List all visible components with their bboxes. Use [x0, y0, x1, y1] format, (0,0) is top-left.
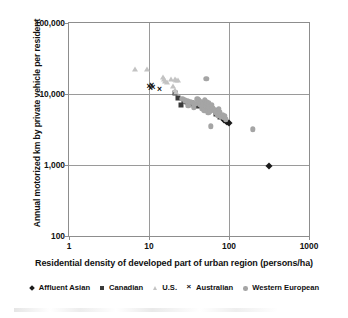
triangle-marker-icon: [152, 284, 159, 291]
y-axis-title: Annual motorized km by private vehicle p…: [32, 8, 42, 238]
data-point-u-s: [144, 66, 150, 71]
y-tick-label: 10,000: [39, 89, 65, 99]
legend-item-label: U.S.: [162, 283, 177, 292]
data-point-u-s: [173, 89, 179, 94]
x-tick-mark: [69, 236, 70, 240]
y-tick-mark: [65, 23, 69, 24]
legend-item-label: Australian: [196, 283, 233, 292]
circle-marker-icon: [242, 284, 249, 291]
legend-item-u-s[interactable]: U.S.: [152, 283, 177, 292]
square-marker-icon: [99, 284, 106, 291]
legend-item-label: Western European: [252, 283, 319, 292]
diamond-marker-icon: [29, 284, 36, 291]
y-gridline: [69, 94, 309, 95]
y-tick-label: 100: [51, 231, 65, 241]
scatter-chart-figure: Annual motorized km by private vehicle p…: [0, 0, 348, 318]
x-tick-label: 10: [144, 241, 153, 251]
x-tick-mark: [229, 236, 230, 240]
x-gridline: [229, 23, 230, 236]
legend-item-australian[interactable]: Australian: [186, 283, 233, 292]
data-point-u-s: [175, 77, 181, 82]
x-tick-mark: [149, 236, 150, 240]
page-scan-artifact: [14, 308, 314, 312]
x-marker-icon: [186, 284, 193, 291]
y-tick-mark: [65, 165, 69, 166]
plot-area: 1001,00010,000100,0001101001000: [68, 22, 310, 237]
data-point-australian: [156, 85, 163, 92]
x-tick-label: 1: [67, 241, 72, 251]
legend-item-canadian[interactable]: Canadian: [99, 283, 143, 292]
x-tick-mark: [309, 236, 310, 240]
legend-item-label: Canadian: [109, 283, 143, 292]
legend-item-western-european[interactable]: Western European: [242, 283, 319, 292]
y-tick-label: 100,000: [35, 18, 65, 28]
x-tick-label: 100: [222, 241, 236, 251]
data-point-western-european: [250, 126, 255, 131]
legend-item-label: Affluent Asian: [39, 283, 90, 292]
x-tick-label: 1000: [300, 241, 319, 251]
data-point-u-s: [132, 66, 138, 71]
chart-legend: Affluent AsianCanadianU.S.AustralianWest…: [0, 283, 348, 292]
data-point-affluent-asian: [266, 162, 273, 169]
y-tick-label: 1,000: [44, 160, 65, 170]
x-axis-title: Residential density of developed part of…: [0, 258, 348, 268]
x-gridline: [149, 23, 150, 236]
data-point-western-european: [208, 124, 213, 129]
y-tick-mark: [65, 94, 69, 95]
data-point-western-european: [204, 76, 209, 81]
legend-item-affluent-asian[interactable]: Affluent Asian: [29, 283, 90, 292]
